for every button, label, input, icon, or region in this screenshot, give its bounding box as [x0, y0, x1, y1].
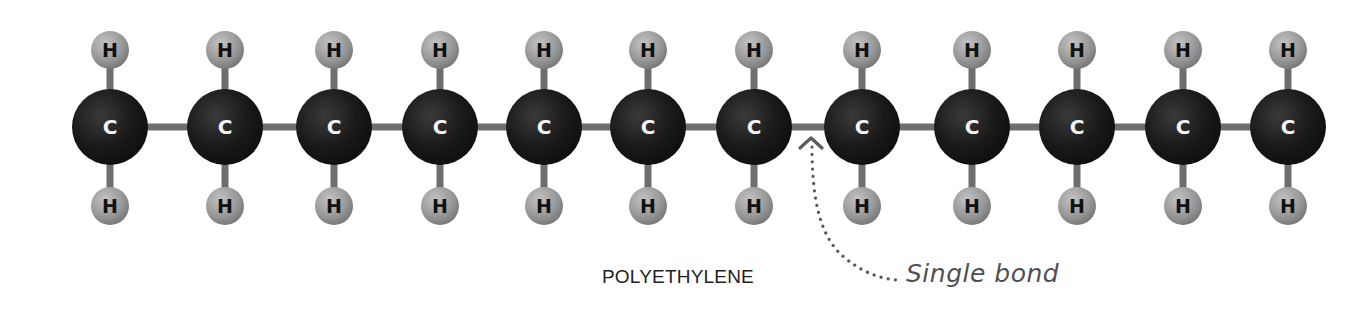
- hydrogen-label: H: [640, 39, 656, 61]
- carbon-label: C: [433, 115, 448, 139]
- carbon-label: C: [641, 115, 656, 139]
- hydrogen-label: H: [1175, 39, 1191, 61]
- hydrogen-label: H: [432, 39, 448, 61]
- hydrogen-atom: H: [1164, 31, 1202, 69]
- hydrogen-atom: H: [843, 187, 881, 225]
- hydrogen-label: H: [432, 195, 448, 217]
- carbon-label: C: [747, 115, 762, 139]
- carbon-label: C: [965, 115, 980, 139]
- carbon-atom: C: [824, 89, 900, 165]
- hydrogen-label: H: [1069, 195, 1085, 217]
- carbon-label: C: [218, 115, 233, 139]
- hydrogen-label: H: [1280, 39, 1296, 61]
- diagram-title: POLYETHYLENE: [560, 266, 796, 288]
- hydrogen-label: H: [854, 39, 870, 61]
- carbon-atom: C: [187, 89, 263, 165]
- hydrogen-atom: H: [843, 31, 881, 69]
- hydrogen-label: H: [964, 195, 980, 217]
- hydrogen-label: H: [326, 39, 342, 61]
- hydrogen-label: H: [1175, 195, 1191, 217]
- hydrogen-label: H: [326, 195, 342, 217]
- hydrogen-atom: H: [629, 31, 667, 69]
- carbon-label: C: [855, 115, 870, 139]
- hydrogen-label: H: [640, 195, 656, 217]
- hydrogen-atom: H: [735, 187, 773, 225]
- carbon-atom: C: [402, 89, 478, 165]
- hydrogen-atom: H: [1058, 187, 1096, 225]
- carbon-atom: C: [1039, 89, 1115, 165]
- hydrogen-atom: H: [206, 187, 244, 225]
- hydrogen-atom: H: [1269, 187, 1307, 225]
- hydrogen-atom: H: [1164, 187, 1202, 225]
- hydrogen-label: H: [102, 39, 118, 61]
- carbon-label: C: [327, 115, 342, 139]
- carbon-atom: C: [716, 89, 792, 165]
- hydrogen-atom: H: [421, 187, 459, 225]
- carbon-label: C: [103, 115, 118, 139]
- hydrogen-label: H: [1280, 195, 1296, 217]
- carbon-atom: C: [934, 89, 1010, 165]
- hydrogen-atom: H: [1269, 31, 1307, 69]
- hydrogen-atom: H: [91, 31, 129, 69]
- hydrogen-label: H: [964, 39, 980, 61]
- hydrogen-atom: H: [525, 31, 563, 69]
- hydrogen-atom: H: [735, 31, 773, 69]
- hydrogen-label: H: [536, 39, 552, 61]
- carbon-label: C: [537, 115, 552, 139]
- hydrogen-atom: H: [315, 187, 353, 225]
- hydrogen-atom: H: [315, 31, 353, 69]
- carbon-label: C: [1281, 115, 1296, 139]
- hydrogen-label: H: [217, 195, 233, 217]
- hydrogen-atom: H: [525, 187, 563, 225]
- hydrogen-label: H: [746, 39, 762, 61]
- carbon-atom: C: [506, 89, 582, 165]
- carbon-atom: C: [610, 89, 686, 165]
- hydrogen-atom: H: [629, 187, 667, 225]
- single-bond-label: Single bond: [906, 259, 1059, 288]
- hydrogen-label: H: [217, 39, 233, 61]
- carbon-label: C: [1070, 115, 1085, 139]
- hydrogen-label: H: [102, 195, 118, 217]
- hydrogen-atom: H: [1058, 31, 1096, 69]
- hydrogen-atom: H: [421, 31, 459, 69]
- carbon-label: C: [1176, 115, 1191, 139]
- carbon-atom: C: [296, 89, 372, 165]
- hydrogen-label: H: [1069, 39, 1085, 61]
- hydrogen-atom: H: [953, 31, 991, 69]
- hydrogen-atom: H: [91, 187, 129, 225]
- hydrogen-label: H: [746, 195, 762, 217]
- carbon-atom: C: [1250, 89, 1326, 165]
- hydrogen-atom: H: [206, 31, 244, 69]
- hydrogen-atom: H: [953, 187, 991, 225]
- carbon-atom: C: [1145, 89, 1221, 165]
- hydrogen-label: H: [536, 195, 552, 217]
- hydrogen-label: H: [854, 195, 870, 217]
- carbon-atom: C: [72, 89, 148, 165]
